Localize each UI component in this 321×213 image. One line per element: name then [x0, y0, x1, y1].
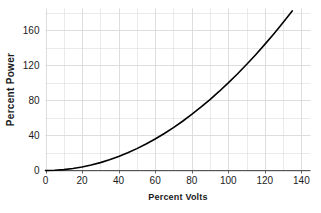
- x-tick-label: 80: [186, 175, 198, 186]
- x-tick-label: 0: [43, 175, 49, 186]
- x-axis-title-text: Percent Volts: [148, 192, 207, 202]
- y-tick-label: 0: [34, 165, 40, 176]
- x-tick-label: 120: [256, 175, 273, 186]
- y-tick-label: 80: [28, 95, 40, 106]
- x-axis-title: Percent Volts: [45, 186, 311, 204]
- y-tick-label: 160: [23, 25, 40, 36]
- x-tick-label: 60: [150, 175, 162, 186]
- x-tick-label: 140: [293, 175, 310, 186]
- x-tick-label: 40: [113, 175, 125, 186]
- x-tick-label: 100: [220, 175, 237, 186]
- percent-power-vs-percent-volts-chart: 020406080100120140 04080120160: [0, 0, 321, 213]
- y-tick-label: 40: [28, 130, 40, 141]
- y-tick-label: 120: [23, 60, 40, 71]
- x-tick-label: 20: [76, 175, 88, 186]
- chart-container: 020406080100120140 04080120160 Percent P…: [0, 0, 321, 213]
